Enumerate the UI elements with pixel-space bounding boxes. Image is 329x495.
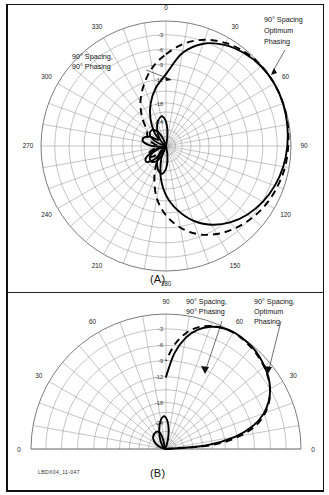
annotation-b-right-line3: Phasing [254,317,280,326]
annotation-b-right-line2: Optimum [254,307,283,316]
leader-line-b-left [206,321,222,369]
arrowhead-a-right [271,68,277,75]
angle-tick-b-6: 0 [311,446,315,453]
polar-chart-panel-a: 0306090120150180210240270300330 -3-6-9-1… [0,0,329,292]
arrowhead-a-left [165,77,172,81]
radial-tick--9: -9 [158,62,163,68]
annotation-b-left-line2: 90° Phasing [186,307,225,316]
angle-tick-60: 60 [282,73,290,80]
arrowhead-b-left [201,366,209,374]
angle-tick-210: 210 [92,262,103,269]
angle-tick-b-2: 60 [89,318,97,325]
radial-tick-labels-b: -3-6-9-12-18-24 [155,326,163,425]
radial-tick--6: -6 [158,47,163,53]
annotation-a-left-line2: 90° Phasing [72,62,111,71]
annotation-b-right-line1: 90° Spacing, [254,297,295,306]
angle-tick-120: 120 [280,211,291,218]
panel-a-caption: (A) [150,273,165,285]
angle-tick-270: 270 [23,142,34,149]
radial-tick--3: -3 [158,32,163,38]
angle-tick-0: 0 [164,4,168,11]
annotation-a-right-line1: 90° Spacing [264,15,303,24]
angle-tick-150: 150 [230,262,241,269]
polar-plot-b-svg: 030609060300 -3-6-9-12-18-24 90° Spacing… [0,292,329,495]
angle-tick-240: 240 [41,211,52,218]
radial-tick-b--3: -3 [158,326,163,332]
angle-tick-30: 30 [231,23,239,30]
radial-tick-b--6: -6 [158,342,163,348]
figure-id-label: LBDX04_11-047 [38,469,80,475]
angle-tick-b-0: 0 [17,446,21,453]
radial-tick-b--18: -18 [155,400,163,406]
polar-chart-panel-b: 030609060300 -3-6-9-12-18-24 90° Spacing… [0,292,329,495]
angle-tick-300: 300 [41,73,52,80]
angle-tick-90: 90 [300,142,308,149]
annotation-a-left-line1: 90° Spacing, [72,52,113,61]
figure-frame: 0306090120150180210240270300330 -3-6-9-1… [0,0,329,495]
annotation-a-right-line2: Optimum [264,26,293,35]
annotation-a-right-line3: Phasing [264,37,290,46]
leader-line-b-right [269,321,281,369]
annotation-b-left-line1: 90° Spacing, [186,297,227,306]
angle-tick-b-4: 60 [236,318,244,325]
angle-tick-b-5: 30 [290,372,298,379]
angle-tick-b-1: 30 [35,372,43,379]
angle-tick-b-3: 90 [162,298,170,305]
radial-tick-b--12: -12 [155,374,163,380]
radial-tick-b--9: -9 [158,358,163,364]
pattern-curve-a-optimum-phasing [143,43,288,225]
polar-plot-a-svg: 0306090120150180210240270300330 -3-6-9-1… [0,0,329,292]
angle-tick-330: 330 [92,23,103,30]
polar-grid-b [31,314,301,449]
panel-b-caption: (B) [150,467,165,479]
radial-tick--18: -18 [155,101,163,107]
